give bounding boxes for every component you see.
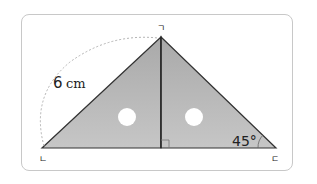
hole-right [185,108,203,126]
vertex-top-label: ㄱ [157,23,165,33]
side-length-number: 6 [53,74,63,92]
vertex-bottom-left-label: ㄴ [39,154,47,164]
angle-label: 45° [232,133,257,149]
vertex-bottom-right-label: ㄷ [271,154,279,164]
right-triangle [161,37,276,148]
hole-left [118,108,136,126]
triangle-diagram: 6 cm 45° ㄱ ㄴ ㄷ [0,0,317,184]
side-length-unit: cm [66,76,86,91]
left-triangle [42,37,161,148]
